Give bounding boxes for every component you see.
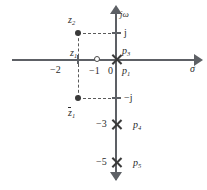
label-p1-subscript: 1 (127, 70, 130, 77)
tick-label-origin: 0 (108, 66, 113, 76)
label-z1-conjugate: z1 (68, 108, 75, 118)
tick-label-plus-j: j (124, 28, 127, 38)
pole-marker-p4 (110, 118, 123, 131)
label-p4-subscript: 4 (138, 124, 141, 131)
label-p1: p1 (122, 66, 130, 76)
pole-zero-plot: σ jω z2 z1 z1 p3 p1 p4 p5 −2 −1 0 j −j −… (0, 0, 207, 190)
dashed-line-z2-to-axis (78, 33, 116, 34)
label-p3-subscript: 3 (127, 50, 130, 57)
zero-marker-z2 (75, 30, 81, 36)
label-p3: p3 (122, 46, 130, 56)
label-z2-subscript: 2 (72, 19, 75, 26)
tick-imag-plus-j (112, 32, 121, 34)
real-axis-label: σ (190, 64, 195, 74)
tick-label-minus-one: −1 (89, 66, 100, 76)
tick-label-minus-five: −5 (96, 157, 107, 167)
dashed-line-vertical-z2-z1bar (78, 33, 79, 98)
dashed-line-z1bar-to-axis (78, 98, 116, 99)
label-p5: p5 (133, 158, 141, 168)
label-z1bar-subscript: 1 (72, 112, 75, 119)
imaginary-axis-line (115, 12, 117, 180)
zero-marker-z1 (94, 56, 100, 62)
tick-imag-minus-j (112, 97, 121, 99)
label-z1: z1 (70, 48, 77, 58)
real-axis-line (12, 59, 196, 61)
tick-label-minus-two: −2 (50, 65, 61, 75)
label-z2: z2 (68, 15, 75, 25)
real-axis-arrow-icon (194, 54, 203, 66)
label-p4: p4 (133, 120, 141, 130)
label-z1-subscript: 1 (74, 52, 77, 59)
imaginary-axis-label: jω (120, 10, 129, 19)
tick-real-minus-two (77, 55, 79, 64)
pole-marker-p5 (110, 156, 123, 169)
zero-marker-z1-conjugate (75, 95, 81, 101)
label-p5-subscript: 5 (138, 162, 141, 169)
imaginary-axis-arrow-down-icon (110, 172, 122, 181)
tick-label-minus-j: −j (124, 93, 132, 103)
tick-label-minus-three: −3 (96, 119, 107, 129)
